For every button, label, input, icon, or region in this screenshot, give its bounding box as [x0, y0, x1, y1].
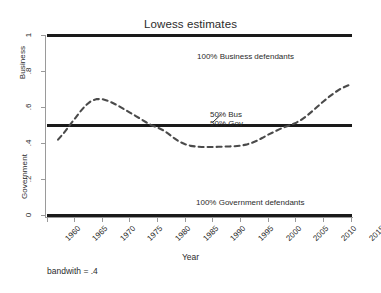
- lowess-curve-layer: [0, 0, 381, 293]
- x-axis-spine: [45, 217, 353, 218]
- x-tick-mark: [212, 218, 213, 222]
- annotation-fifty-fifty: 50% Bus 50% Gov: [210, 110, 243, 128]
- x-tick-mark: [157, 218, 158, 222]
- bandwidth-note: bandwith = .4: [47, 266, 98, 276]
- x-tick-mark: [129, 218, 130, 222]
- annotation-fifty-bus: 50% Bus: [210, 110, 243, 119]
- y-tick-label-06: .6: [22, 102, 36, 112]
- x-tick-mark: [185, 218, 186, 222]
- y-tick-label-0: 0: [22, 210, 36, 220]
- x-tick-mark: [323, 218, 324, 222]
- y-tick-label-1: 1: [22, 30, 36, 40]
- annotation-100-business: 100% Business defendants: [197, 52, 294, 61]
- y-tick-mark: [41, 35, 45, 36]
- x-tick-mark: [47, 218, 48, 222]
- y-tick-label-04: .4: [22, 138, 36, 148]
- x-tick-mark: [102, 218, 103, 222]
- annotation-100-government: 100% Government defendants: [196, 198, 305, 207]
- x-tick-mark: [240, 218, 241, 222]
- y-tick-mark: [41, 71, 45, 72]
- y-axis-spine: [45, 35, 46, 217]
- x-tick-mark: [295, 218, 296, 222]
- x-axis-title: Year: [0, 252, 381, 262]
- y-tick-mark: [41, 143, 45, 144]
- y-tick-mark: [41, 215, 45, 216]
- annotation-fifty-gov: 50% Gov: [210, 119, 243, 128]
- y-tick-label-02: .2: [22, 174, 36, 184]
- x-tick-mark: [74, 218, 75, 222]
- y-axis-title-business: Business: [18, 40, 27, 86]
- reference-line-50-50: [47, 124, 352, 127]
- x-tick-mark: [351, 218, 352, 222]
- page-title: Lowess estimates: [0, 18, 381, 30]
- reference-line-100-business: [47, 34, 352, 37]
- y-tick-label-08: .8: [22, 66, 36, 76]
- lowess-chart-figure: Lowess estimates Business Government Yea…: [0, 0, 381, 293]
- y-tick-mark: [41, 179, 45, 180]
- x-tick-mark: [268, 218, 269, 222]
- lowess-curve: [58, 84, 351, 147]
- y-tick-mark: [41, 107, 45, 108]
- reference-line-100-government: [47, 214, 352, 217]
